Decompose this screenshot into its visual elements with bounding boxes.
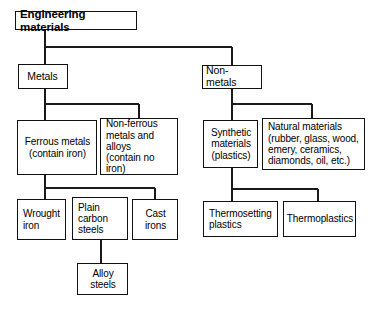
node-alloy-steels[interactable]: Alloy steels	[77, 263, 128, 295]
engineering-materials-diagram: Engineering materials Metals Non-metals …	[0, 0, 374, 310]
node-thermoplastics-label: Thermoplastics	[287, 213, 353, 224]
node-plain-carbon-steels[interactable]: Plain carbon steels	[72, 197, 128, 240]
node-non-metals[interactable]: Non-metals	[202, 65, 262, 89]
node-wrought-iron-label: Wrought iron	[23, 208, 60, 231]
node-synthetic-materials[interactable]: Synthetic materials (plastics)	[203, 120, 258, 168]
node-natural-materials-label: Natural materials (rubber, glass, wood, …	[268, 121, 359, 166]
node-non-ferrous-metals-label: Non-ferrous metals and alloys (contain n…	[106, 118, 173, 174]
node-metals[interactable]: Metals	[18, 64, 68, 89]
node-thermosetting-plastics-label: Thermosetting plastics	[209, 208, 272, 231]
node-wrought-iron[interactable]: Wrought iron	[17, 199, 66, 240]
node-plain-carbon-steels-label: Plain carbon steels	[78, 202, 108, 236]
node-engineering-materials[interactable]: Engineering materials	[15, 11, 137, 30]
node-thermoplastics[interactable]: Thermoplastics	[283, 201, 356, 237]
node-thermosetting-plastics[interactable]: Thermosetting plastics	[203, 201, 278, 237]
node-ferrous-metals[interactable]: Ferrous metals (contain iron)	[17, 120, 97, 175]
node-alloy-steels-label: Alloy steels	[90, 268, 116, 291]
node-metals-label: Metals	[27, 71, 57, 83]
node-natural-materials[interactable]: Natural materials (rubber, glass, wood, …	[262, 118, 365, 170]
node-cast-irons[interactable]: Cast irons	[132, 199, 178, 240]
node-cast-irons-label: Cast irons	[145, 208, 166, 231]
node-engineering-materials-label: Engineering materials	[20, 8, 132, 34]
node-non-metals-label: Non-metals	[206, 65, 257, 89]
node-non-ferrous-metals[interactable]: Non-ferrous metals and alloys (contain n…	[100, 118, 178, 175]
node-ferrous-metals-label: Ferrous metals (contain iron)	[25, 136, 90, 159]
node-synthetic-materials-label: Synthetic materials (plastics)	[211, 127, 251, 161]
